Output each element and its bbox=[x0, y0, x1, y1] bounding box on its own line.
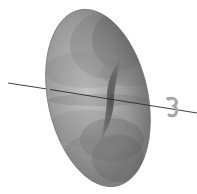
rotation-arrow-icon bbox=[166, 97, 177, 116]
torus-diagram bbox=[0, 0, 197, 194]
